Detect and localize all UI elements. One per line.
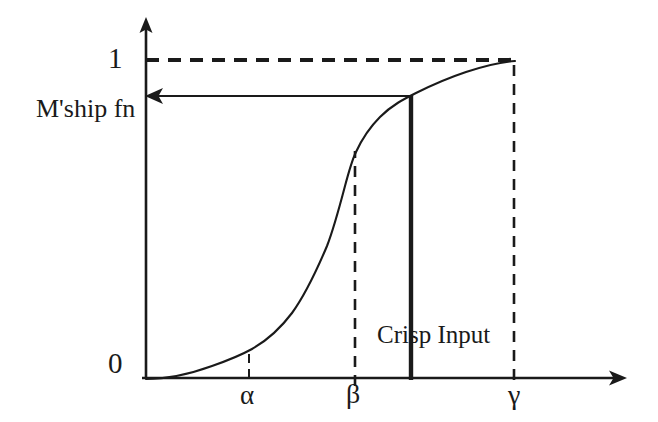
y-axis-top-tick-label: 1 <box>108 44 123 73</box>
y-axis <box>140 17 153 378</box>
crisp-input-label: Crisp Input <box>377 322 490 347</box>
membership-value-arrow-line <box>145 88 411 104</box>
y-axis-bottom-tick-label: 0 <box>108 349 123 378</box>
figure-root: 1 0 M'ship fn α β γ Crisp Input <box>0 0 658 422</box>
membership-function-chart <box>0 0 658 422</box>
x-axis-tick-label-beta: β <box>346 380 360 408</box>
y-axis-title: M'ship fn <box>36 96 135 122</box>
x-axis-tick-label-alpha: α <box>240 382 254 409</box>
x-axis <box>142 371 627 386</box>
x-axis-tick-label-gamma: γ <box>508 381 520 409</box>
